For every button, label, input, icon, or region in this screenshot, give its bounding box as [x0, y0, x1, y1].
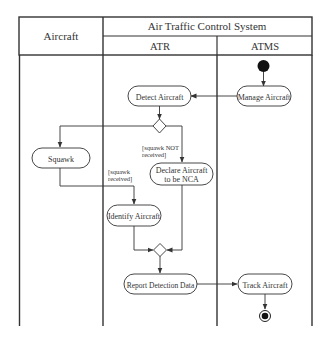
action-declare-nca[interactable]: Declare Aircraft to be NCA [150, 163, 213, 185]
guard-squawk-not-received: [squawk NOT received] [142, 144, 179, 159]
action-track-aircraft[interactable]: Track Aircraft [238, 274, 292, 294]
final-node-icon [260, 311, 271, 322]
activity-diagram: Aircraft Air Traffic Control System ATR … [0, 0, 325, 346]
action-label: Manage Aircraft [238, 93, 291, 102]
initial-node-icon [258, 60, 270, 72]
group-header-atc: Air Traffic Control System [148, 20, 267, 32]
action-label: Detect Aircraft [136, 93, 185, 102]
guard-squawk-received: [squawk received] [108, 168, 132, 183]
action-report-detection-data[interactable]: Report Detection Data [124, 274, 197, 294]
action-label: Track Aircraft [242, 281, 288, 290]
action-identify-aircraft[interactable]: Identify Aircraft [107, 205, 161, 226]
svg-text:received]: received] [108, 175, 132, 183]
lane-header-atr: ATR [150, 41, 170, 52]
action-label: Report Detection Data [127, 281, 195, 290]
action-label-line2: to be NCA [164, 175, 199, 184]
merge-node-icon [154, 244, 167, 257]
lane-header-aircraft: Aircraft [44, 30, 79, 42]
swimlane-header: Aircraft Air Traffic Control System ATR … [19, 17, 312, 55]
edges [60, 72, 265, 309]
action-label: Squawk [48, 155, 74, 164]
action-manage-aircraft[interactable]: Manage Aircraft [237, 86, 291, 106]
lane-header-atms: ATMS [251, 41, 279, 52]
action-label: Identify Aircraft [108, 212, 161, 221]
action-detect-aircraft[interactable]: Detect Aircraft [128, 86, 191, 106]
svg-text:received]: received] [142, 151, 166, 159]
action-squawk[interactable]: Squawk [32, 148, 90, 168]
decision-node-icon [153, 119, 166, 133]
action-label-line1: Declare Aircraft [156, 166, 209, 175]
